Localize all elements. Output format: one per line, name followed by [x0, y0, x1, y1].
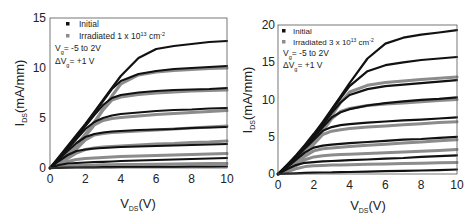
legend-label-irradiated: Irradiated 3 x 1013 cm-2: [293, 37, 374, 47]
x-axis-label-right: VDS(V): [350, 198, 386, 214]
legend-left: Initial Irradiated 1 x 1013 cm-2: [66, 19, 165, 41]
annotation-vg-step: ΔVg= +1 V: [283, 60, 323, 72]
y-axis-label-right: IDS(mA/mm): [240, 67, 256, 134]
x-tick-label: 6: [153, 172, 160, 186]
x-tick-labels-right: 0 2 4 6 8 10: [275, 178, 464, 192]
x-tick-labels-left: 0 2 4 6 8 10: [47, 172, 234, 186]
x-tick-label: 4: [117, 172, 124, 186]
figure: 0 5 10 15 0 2 4 6 8 10 VDS(V) IDS(mA/mm)…: [0, 0, 471, 222]
y-tick-labels-left: 0 5 10 15: [33, 11, 47, 175]
annotation-right: Vg= -5 to 2V ΔVg= +1 V: [283, 48, 329, 72]
y-tick-label: 10: [33, 61, 47, 75]
legend-marker-irradiated: [66, 34, 70, 38]
legend-right: Initial Irradiated 3 x 1013 cm-2: [282, 27, 374, 47]
y-tick-label: 15: [33, 11, 47, 25]
legend-marker-irradiated: [282, 40, 286, 44]
chart-left: 0 5 10 15 0 2 4 6 8 10 VDS(V) IDS(mA/mm)…: [12, 11, 234, 212]
x-tick-label: 2: [82, 172, 89, 186]
x-tick-label: 10: [450, 178, 464, 192]
legend-marker-initial: [282, 29, 286, 33]
x-tick-label: 2: [310, 178, 317, 192]
legend-label-irradiated: Irradiated 1 x 1013 cm-2: [79, 31, 165, 41]
x-tick-label: 10: [220, 172, 234, 186]
x-tick-label: 8: [418, 178, 425, 192]
series-initial: [278, 170, 457, 175]
annotation-vg-range: Vg= -5 to 2V: [283, 48, 329, 60]
y-tick-label: 20: [262, 18, 276, 32]
legend-label-initial: Initial: [79, 19, 99, 29]
x-tick-label: 8: [188, 172, 195, 186]
y-tick-label: 5: [39, 111, 46, 125]
chart-right: 0 5 10 15 20 0 2 4 6 8 10 VDS(V) IDS(mA/…: [240, 18, 464, 214]
annotation-vg-step: ΔVg= +1 V: [55, 56, 95, 68]
x-tick-label: 0: [47, 172, 54, 186]
y-tick-label: 5: [268, 130, 275, 144]
legend-marker-initial: [66, 22, 70, 26]
x-tick-label: 6: [382, 178, 389, 192]
x-tick-label: 4: [346, 178, 353, 192]
y-axis-label-left: IDS(mA/mm): [12, 60, 28, 127]
annotation-vg-range: Vg= -5 to 2V: [55, 43, 101, 55]
legend-label-initial: Initial: [293, 27, 312, 36]
x-axis-label-left: VDS(V): [120, 196, 156, 212]
y-tick-label: 0: [39, 161, 46, 175]
annotation-left: Vg= -5 to 2V ΔVg= +1 V: [55, 43, 101, 68]
x-tick-label: 0: [275, 178, 282, 192]
y-tick-label: 10: [262, 93, 276, 107]
y-tick-label: 15: [262, 55, 276, 69]
y-tick-labels-right: 0 5 10 15 20: [262, 18, 276, 181]
